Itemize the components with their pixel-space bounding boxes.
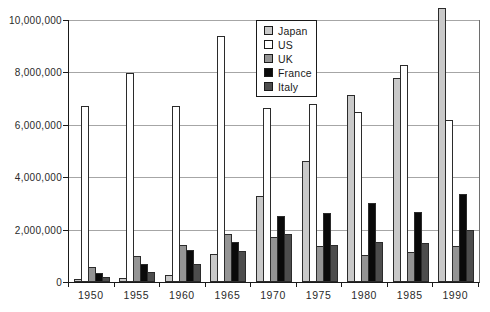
x-axis-label-1960: 1960: [159, 289, 205, 301]
x-axis-labels: 195019551960196519701975198019851990: [68, 289, 478, 301]
y-axis-label: 2,000,000: [0, 225, 62, 236]
x-axis-tick: [250, 283, 251, 287]
y-axis-label: 0: [0, 277, 62, 288]
legend-item-france: France: [264, 67, 316, 78]
bar-group-1990: [434, 20, 480, 282]
bar-italy-1970: [284, 234, 292, 282]
legend-label: US: [278, 39, 293, 51]
bar-group-1960: [160, 20, 206, 282]
y-axis-tick: [63, 230, 68, 231]
legend-label: France: [278, 67, 312, 79]
y-axis-label: 6,000,000: [0, 120, 62, 131]
bar-italy-1980: [375, 242, 383, 282]
y-axis-label: 10,000,000: [0, 15, 62, 26]
x-axis-label-1970: 1970: [250, 289, 296, 301]
bar-italy-1955: [147, 272, 155, 282]
x-axis-tick: [114, 283, 115, 287]
bar-group-1980: [342, 20, 388, 282]
legend-swatch-icon: [264, 54, 273, 63]
legend-swatch-icon: [264, 82, 273, 91]
y-axis-tick: [63, 125, 68, 126]
x-axis-tick: [296, 283, 297, 287]
x-axis-tick: [68, 283, 69, 287]
x-axis-label-1975: 1975: [296, 289, 342, 301]
x-axis-tick: [159, 283, 160, 287]
y-axis-tick: [63, 72, 68, 73]
legend-label: Italy: [278, 81, 298, 93]
x-axis-label-1990: 1990: [433, 289, 479, 301]
legend-item-uk: UK: [264, 53, 316, 64]
x-axis-label-1985: 1985: [387, 289, 433, 301]
legend-swatch-icon: [264, 40, 273, 49]
legend-label: Japan: [278, 25, 308, 37]
x-axis-label-1965: 1965: [205, 289, 251, 301]
x-axis-tick: [478, 283, 479, 287]
legend-item-italy: Italy: [264, 81, 316, 92]
legend-item-us: US: [264, 39, 316, 50]
bar-us-1950: [81, 106, 89, 282]
legend-swatch-icon: [264, 68, 273, 77]
bar-italy-1985: [421, 243, 429, 282]
bar-italy-1965: [238, 251, 246, 282]
x-axis-tick: [387, 283, 388, 287]
bar-us-1955: [126, 73, 134, 282]
x-axis-label-1955: 1955: [114, 289, 160, 301]
x-axis-label-1980: 1980: [341, 289, 387, 301]
bar-group-1950: [69, 20, 115, 282]
bar-italy-1960: [193, 264, 201, 282]
x-axis-tick: [205, 283, 206, 287]
legend-swatch-icon: [264, 26, 273, 35]
x-axis-label-1950: 1950: [68, 289, 114, 301]
bar-group-1965: [206, 20, 252, 282]
bar-italy-1975: [330, 245, 338, 282]
bar-chart: JapanUSUKFranceItaly 02,000,0004,000,000…: [0, 0, 490, 312]
legend: JapanUSUKFranceItaly: [256, 20, 317, 97]
bar-italy-1990: [466, 230, 474, 282]
legend-item-japan: Japan: [264, 25, 316, 36]
y-axis-tick: [63, 177, 68, 178]
x-axis-tick: [341, 283, 342, 287]
y-axis-label: 8,000,000: [0, 67, 62, 78]
y-axis-tick: [63, 20, 68, 21]
x-axis-tick: [432, 283, 433, 287]
bar-us-1985: [400, 65, 408, 282]
legend-label: UK: [278, 53, 293, 65]
y-axis-label: 4,000,000: [0, 172, 62, 183]
bar-group-1985: [388, 20, 434, 282]
bar-italy-1950: [102, 277, 110, 282]
bar-group-1955: [115, 20, 161, 282]
